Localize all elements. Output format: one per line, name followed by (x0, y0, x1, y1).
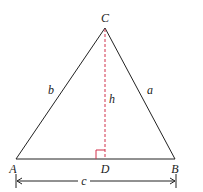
side-b (16, 28, 105, 159)
triangle-diagram: C A D B b a c h (0, 0, 203, 192)
altitude-label-h: h (109, 92, 115, 106)
side-label-a: a (147, 83, 153, 97)
vertex-label-a: A (8, 162, 17, 176)
right-angle-marker (96, 150, 105, 159)
side-label-c: c (81, 174, 87, 188)
vertex-label-c: C (101, 11, 110, 25)
side-label-b: b (48, 83, 54, 97)
vertex-label-b: B (171, 162, 179, 176)
vertex-label-d: D (100, 162, 110, 176)
side-a (105, 28, 175, 159)
